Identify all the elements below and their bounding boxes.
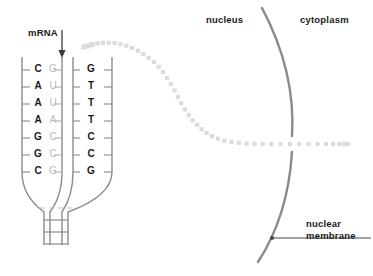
- base-mrna-row2: A: [31, 80, 45, 91]
- mrna-dot: [95, 41, 99, 45]
- mrna-dotted-path: [81, 41, 350, 147]
- mrna-dot: [85, 43, 90, 48]
- mrna-dot: [279, 142, 283, 146]
- base-mrna-row7: C: [31, 165, 45, 176]
- base-coding-row5: C: [84, 131, 98, 142]
- nuclear-membrane-label-line1: nuclear: [306, 218, 356, 230]
- mrna-dot: [222, 138, 226, 142]
- mrna-dot: [331, 142, 335, 146]
- coding-inner-ticks: [73, 70, 80, 172]
- base-mrna-row1: C: [31, 63, 45, 74]
- base-template-row6: C: [46, 148, 60, 159]
- base-coding-row7: G: [84, 165, 98, 176]
- mrna-dot: [136, 49, 140, 53]
- base-template-row2: U: [46, 80, 60, 91]
- nuclear-membrane-arc-upper: [262, 8, 292, 136]
- coding-backbone-ticks: [104, 70, 112, 172]
- base-template-row3: U: [46, 97, 60, 108]
- mrna-dot: [152, 60, 156, 64]
- mrna-dot: [101, 41, 105, 45]
- mrna-dot: [216, 137, 220, 141]
- base-coding-row3: T: [84, 97, 98, 108]
- nuclear-membrane-arc-lower: [258, 152, 292, 262]
- mrna-dot: [130, 46, 134, 50]
- base-mrna-row3: A: [31, 97, 45, 108]
- base-coding-row4: T: [84, 114, 98, 125]
- mrna-dot: [346, 142, 350, 146]
- diagram-canvas: mRNA nucleus cytoplasm nuclear membrane …: [0, 0, 373, 276]
- base-coding-row1: G: [84, 63, 98, 74]
- mrna-dot: [147, 56, 151, 60]
- mrna-pointer-arrow: [58, 30, 65, 58]
- mrna-dot: [210, 134, 214, 138]
- helix-rungs: [44, 220, 68, 244]
- mrna-dot: [179, 101, 183, 105]
- mrna-dot: [229, 140, 233, 144]
- cytoplasm-label: cytoplasm: [300, 14, 349, 25]
- mrna-dot: [324, 142, 328, 146]
- mrna-dot: [195, 123, 199, 127]
- mrna-dot: [252, 142, 256, 146]
- mrna-dot: [261, 142, 265, 146]
- mrna-backbone-ticks: [22, 70, 30, 172]
- mrna-dot: [269, 142, 273, 146]
- mrna-dot: [183, 107, 187, 111]
- mrna-dot: [306, 142, 310, 146]
- mrna-dot: [112, 41, 116, 45]
- mrna-dot: [316, 142, 320, 146]
- mrna-dot: [169, 82, 173, 86]
- mrna-dot: [297, 142, 301, 146]
- nuclear-membrane-label: nuclear membrane: [306, 218, 356, 241]
- mrna-dot: [107, 41, 111, 45]
- base-template-row7: G: [46, 165, 60, 176]
- mrna-dot: [200, 127, 204, 131]
- mrna-dot: [118, 42, 122, 46]
- base-template-row1: G: [46, 63, 60, 74]
- nuclear-membrane-label-line2: membrane: [306, 230, 356, 242]
- mrna-dot: [176, 95, 180, 99]
- mrna-label: mRNA: [28, 27, 58, 38]
- mrna-dot: [191, 118, 195, 122]
- base-coding-row6: C: [84, 148, 98, 159]
- mrna-dot: [124, 44, 128, 48]
- mrna-dot: [90, 42, 95, 47]
- mrna-dot: [172, 88, 176, 92]
- base-mrna-row5: G: [31, 131, 45, 142]
- base-mrna-row6: G: [31, 148, 45, 159]
- base-template-row4: A: [46, 114, 60, 125]
- base-coding-row2: T: [84, 80, 98, 91]
- base-mrna-row4: A: [31, 114, 45, 125]
- mrna-dot: [288, 142, 292, 146]
- base-template-row5: C: [46, 131, 60, 142]
- mrna-dot: [165, 76, 169, 80]
- mrna-dot: [244, 141, 248, 145]
- mrna-dot: [204, 131, 208, 135]
- nucleus-label: nucleus: [206, 14, 243, 25]
- mrna-dot: [237, 141, 241, 145]
- mrna-dot: [157, 65, 161, 69]
- mrna-dot: [337, 142, 341, 146]
- mrna-dot: [161, 70, 165, 74]
- mrna-dot: [187, 113, 191, 117]
- mrna-dot: [141, 52, 145, 56]
